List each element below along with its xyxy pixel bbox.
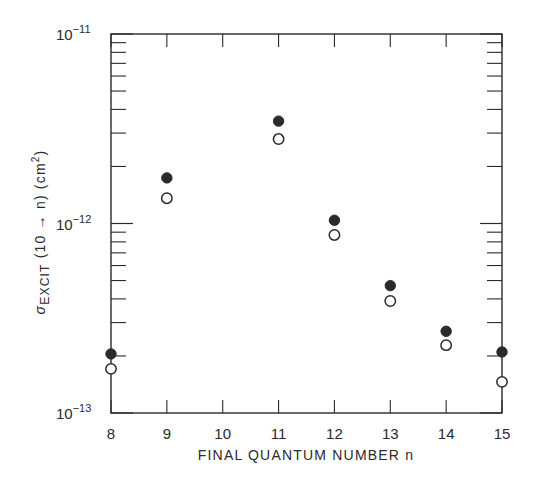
x-axis-title: FINAL QUANTUM NUMBER n	[198, 447, 414, 463]
filled-circle-point	[162, 173, 172, 183]
x-tick-label: 12	[326, 425, 343, 442]
svg-text:σEXCIT (10 → n) (cm2): σEXCIT (10 → n) (cm2)	[30, 150, 52, 315]
y-tick-label: 10−11	[56, 23, 91, 43]
x-tick-label: 14	[438, 425, 455, 442]
open-circle-point	[385, 296, 395, 306]
plot-frame	[111, 34, 502, 413]
filled-circle-point	[273, 116, 283, 126]
x-tick-label: 10	[214, 425, 231, 442]
x-tick-label: 8	[107, 425, 115, 442]
y-axis-unit-close: )	[32, 150, 48, 156]
chart: 89101112131415 10−1310−1210−11 FINAL QUA…	[0, 0, 535, 484]
y-minor-ticks	[111, 34, 502, 413]
filled-circle-point	[106, 349, 116, 359]
filled-circle-point	[329, 215, 339, 225]
x-tick-label: 11	[271, 425, 287, 442]
x-tick-labels: 89101112131415	[107, 425, 511, 442]
open-circle-point	[497, 377, 507, 387]
filled-circle-point	[497, 347, 507, 357]
open-circle-point	[329, 230, 339, 240]
data-points	[106, 116, 507, 387]
y-axis-transition: (10 → n)	[32, 194, 48, 258]
open-circle-point	[162, 193, 172, 203]
y-axis-title: σEXCIT (10 → n) (cm2)	[30, 150, 52, 315]
x-tick-label: 9	[163, 425, 171, 442]
x-ticks	[111, 34, 502, 413]
open-circle-point	[106, 364, 116, 374]
y-axis-unit-sup: 2	[30, 155, 41, 162]
y-axis-subscript: EXCIT	[38, 263, 52, 304]
y-tick-labels: 10−1310−1210−11	[56, 23, 91, 422]
filled-circle-point	[441, 326, 451, 336]
y-tick-label: 10−13	[56, 402, 91, 422]
x-tick-label: 13	[382, 425, 399, 442]
y-axis-symbol: σ	[32, 305, 48, 315]
y-axis-unit: (cm	[32, 162, 48, 189]
y-tick-label: 10−12	[56, 213, 91, 233]
open-circle-point	[273, 134, 283, 144]
open-circle-point	[441, 340, 451, 350]
x-tick-label: 15	[494, 425, 511, 442]
filled-circle-point	[385, 280, 395, 290]
